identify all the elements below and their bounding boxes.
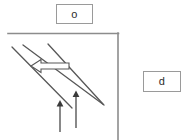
up-arrow-right-icon xyxy=(73,91,80,129)
descending-line-lower-icon xyxy=(23,45,104,105)
right-label-box: d xyxy=(143,71,181,92)
descending-line-upper-icon xyxy=(12,47,72,108)
right-label-text: d xyxy=(159,76,165,87)
up-arrow-left-icon xyxy=(57,100,64,132)
top-label-text: o xyxy=(71,9,77,20)
top-label-box: o xyxy=(56,4,93,24)
diagram-vector-layer xyxy=(0,0,186,140)
diagram-canvas: o d xyxy=(0,0,186,140)
